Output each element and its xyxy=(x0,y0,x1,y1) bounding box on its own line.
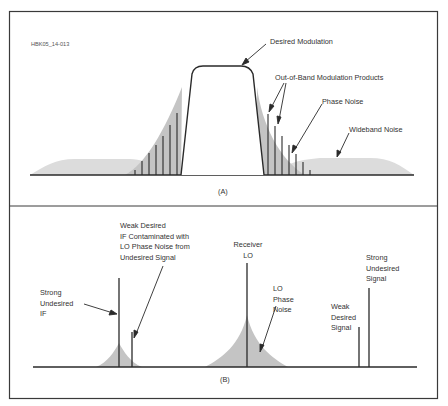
label-strong-undesired-if: Strong Undesired IF xyxy=(40,288,73,320)
label-out-of-band-products: Out-of-Band Modulation Products xyxy=(275,73,383,84)
label-desired-modulation: Desired Modulation xyxy=(270,37,333,48)
label-phase-noise: Phase Noise xyxy=(322,97,363,108)
panel-b-caption: (B) xyxy=(220,375,230,386)
label-lo-phase-noise: LO Phase Noise xyxy=(273,284,294,316)
label-receiver-lo: Receiver LO xyxy=(230,240,266,261)
label-weak-desired-if: Weak Desired IF Contaminated with LO Pha… xyxy=(120,221,190,263)
label-strong-undesired-signal: Strong Undesired Signal xyxy=(366,253,399,285)
label-weak-desired-signal: Weak Desired Signal xyxy=(331,302,356,334)
diagram-canvas xyxy=(0,0,448,406)
panel-b-spectrum xyxy=(33,263,417,367)
panel-a-caption: (A) xyxy=(218,187,228,198)
label-wideband-noise: Wideband Noise xyxy=(349,125,403,136)
desired-modulation-shape xyxy=(181,66,264,175)
figure-id: HBK05_14-013 xyxy=(31,39,69,50)
